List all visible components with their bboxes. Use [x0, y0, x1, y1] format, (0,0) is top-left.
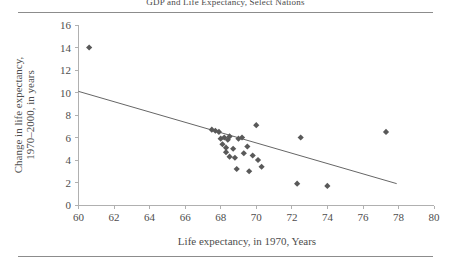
y-tick-label: 0 [66, 199, 72, 211]
data-point [298, 134, 304, 140]
data-point [383, 129, 389, 135]
y-tick-label: 10 [60, 87, 72, 99]
x-tick-label: 70 [251, 211, 263, 223]
x-tick-label: 78 [393, 211, 405, 223]
x-tick-label: 64 [144, 211, 156, 223]
x-tick-label: 66 [180, 211, 192, 223]
y-tick-label: 4 [66, 154, 72, 166]
x-tick-labels: 60 62 64 66 68 70 72 74 76 78 80 [73, 211, 440, 223]
data-point [246, 168, 252, 174]
y-axis-title: Change in life expectancy, 1970–2000, in… [12, 56, 36, 173]
y-axis-title-line1: Change in life expectancy, [12, 56, 24, 173]
data-point [230, 146, 236, 152]
data-point [86, 44, 92, 50]
y-tick-label: 16 [60, 19, 72, 31]
x-tick-label: 72 [286, 211, 297, 223]
x-axis-title: Life expectancy, in 1970, Years [178, 235, 316, 247]
y-tick-label: 14 [60, 42, 72, 54]
data-points-group [86, 44, 389, 189]
x-tick-label: 76 [358, 211, 370, 223]
y-tick-labels: 16 14 12 10 8 6 4 2 0 [60, 19, 72, 211]
data-point [253, 122, 259, 128]
x-tick-label: 74 [322, 211, 334, 223]
data-point [234, 166, 240, 172]
data-point [244, 143, 250, 149]
x-tick-label: 68 [215, 211, 227, 223]
data-point [250, 152, 256, 158]
divider-bottom [18, 256, 433, 257]
data-point [324, 183, 330, 189]
chart-title: GDP and Life Expectancy, Select Nations [0, 0, 451, 7]
data-point [258, 164, 264, 170]
y-axis-title-line2: 1970–2000, in years [24, 70, 36, 160]
figure-container: GDP and Life Expectancy, Select Nations … [0, 0, 451, 266]
data-point [241, 150, 247, 156]
x-tick-label: 80 [429, 211, 441, 223]
data-point [294, 181, 300, 187]
data-point [223, 149, 229, 155]
x-tick-label: 60 [73, 211, 85, 223]
x-tick-label: 62 [109, 211, 120, 223]
data-point [226, 154, 232, 160]
y-tick-label: 8 [66, 109, 72, 121]
y-tick-label: 2 [66, 177, 72, 189]
y-tick-marks [75, 25, 79, 205]
y-tick-label: 6 [66, 132, 72, 144]
x-tick-marks [79, 206, 435, 210]
scatter-plot: 16 14 12 10 8 6 4 2 0 60 62 [0, 12, 451, 256]
data-point [255, 157, 261, 163]
data-point [232, 155, 238, 161]
y-tick-label: 12 [60, 64, 71, 76]
